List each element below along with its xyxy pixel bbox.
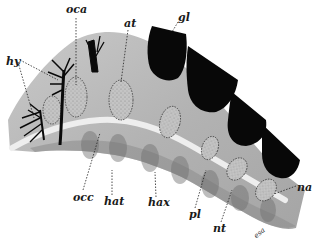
label-hy: hy xyxy=(6,56,20,67)
label-gl: gl xyxy=(178,12,190,23)
label-at: at xyxy=(124,18,136,29)
label-na: na xyxy=(297,182,312,193)
label-hax: hax xyxy=(148,197,170,208)
label-oca: oca xyxy=(66,4,87,15)
label-nt: nt xyxy=(213,223,226,234)
label-occ: occ xyxy=(73,192,94,203)
label-pl: pl xyxy=(189,209,201,220)
label-hat: hat xyxy=(104,196,124,207)
anatomical-figure: oca at gl hy occ hat hax pl nt na esa xyxy=(0,0,315,243)
